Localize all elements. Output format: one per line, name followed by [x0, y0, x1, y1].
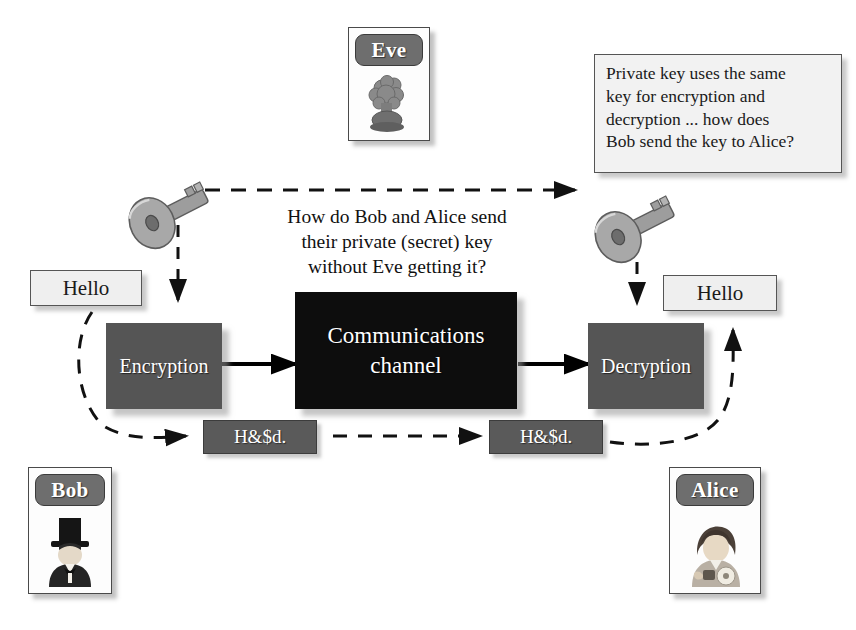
decryption-box: Decryption: [588, 323, 704, 409]
encryption-box: Encryption: [106, 323, 222, 409]
encryption-label: Encryption: [120, 355, 209, 378]
ciphertext-left-label: H&$d.: [234, 426, 286, 448]
callout-line-4: Bob send the key to Alice?: [606, 130, 832, 153]
center-question-line-3: without Eve getting it?: [250, 255, 544, 280]
callout-line-1: Private key uses the same: [606, 62, 832, 85]
callout-line-3: decryption ... how does: [606, 108, 832, 131]
callout-line-2: key for encryption and: [606, 85, 832, 108]
channel-label: Communications channel: [327, 321, 484, 380]
channel-label-line-1: Communications: [327, 321, 484, 350]
sender-key: [124, 178, 216, 250]
center-question: How do Bob and Alice send their private …: [250, 205, 544, 280]
callout-box: Private key uses the same key for encryp…: [594, 54, 842, 173]
diagram-canvas: Eve Private key uses the same key for en…: [0, 0, 856, 630]
actor-card-alice: Alice: [669, 467, 761, 594]
receiver-key: [590, 192, 682, 264]
plaintext-right: Hello: [663, 275, 777, 311]
actor-card-eve: Eve: [348, 27, 430, 141]
actor-card-bob: Bob: [28, 467, 112, 594]
ciphertext-right: H&$d.: [489, 420, 603, 454]
channel-label-line-2: channel: [327, 351, 484, 380]
actor-name-bob: Bob: [35, 474, 105, 506]
communications-channel-box: Communications channel: [295, 292, 517, 409]
plaintext-left: Hello: [30, 270, 142, 306]
plaintext-left-label: Hello: [63, 276, 110, 300]
bob-tophat-avatar-icon: [29, 510, 111, 587]
center-question-line-2: their private (secret) key: [250, 230, 544, 255]
eve-explosion-avatar-icon: [349, 70, 429, 134]
ciphertext-left: H&$d.: [203, 420, 317, 454]
plaintext-right-label: Hello: [697, 281, 744, 305]
actor-name-eve: Eve: [355, 34, 423, 66]
decryption-label: Decryption: [601, 355, 691, 378]
alice-woman-avatar-icon: [670, 510, 760, 587]
center-question-line-1: How do Bob and Alice send: [250, 205, 544, 230]
actor-name-alice: Alice: [676, 474, 754, 506]
ciphertext-right-label: H&$d.: [520, 426, 572, 448]
